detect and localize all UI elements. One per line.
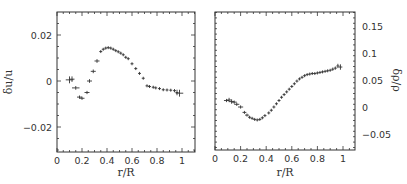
left-x-tick-labels: 00.20.40.60.81 xyxy=(54,155,185,166)
data-point xyxy=(99,50,102,53)
data-point xyxy=(91,70,96,74)
data-point xyxy=(275,102,278,105)
x-tick-label: 0 xyxy=(212,153,218,164)
data-point xyxy=(107,46,110,49)
data-point xyxy=(311,72,314,75)
data-point xyxy=(162,88,165,91)
y-tick-label: 0.15 xyxy=(362,21,383,32)
x-tick-label: 0.2 xyxy=(74,155,89,166)
data-point xyxy=(169,89,172,92)
right-x-axis-label: r/R xyxy=(276,166,294,179)
y-tick-label: 0 xyxy=(46,76,52,87)
data-point xyxy=(280,96,283,99)
data-point xyxy=(72,86,80,90)
data-point xyxy=(131,62,134,65)
y-tick-label: 0.1 xyxy=(362,48,377,59)
left-y-axis-label: δu/u xyxy=(2,70,15,95)
data-point xyxy=(321,70,324,73)
data-point xyxy=(308,73,311,76)
data-point xyxy=(272,106,275,109)
data-point xyxy=(267,111,270,114)
data-point xyxy=(166,88,169,91)
data-point xyxy=(238,105,243,108)
x-tick-label: 0.6 xyxy=(284,153,299,164)
left-plot-frame xyxy=(57,12,195,152)
data-point xyxy=(334,67,337,70)
data-point xyxy=(278,99,281,102)
right-plot-frame xyxy=(215,12,355,150)
data-point xyxy=(70,76,75,82)
data-point xyxy=(326,69,329,72)
y-tick-label: 0.05 xyxy=(362,75,383,86)
data-point xyxy=(263,114,266,117)
data-point xyxy=(261,116,264,119)
data-point xyxy=(122,53,125,56)
data-point xyxy=(234,103,239,106)
data-point xyxy=(270,109,273,112)
data-point xyxy=(288,88,291,91)
left-y-tick-labels: 0.020−0.02 xyxy=(23,30,52,133)
left-ticks xyxy=(57,12,195,152)
data-point xyxy=(318,71,321,74)
y-tick-label: 0.02 xyxy=(31,30,52,41)
x-tick-label: 1 xyxy=(340,153,346,164)
right-y-axis-label: δρ/ρ xyxy=(390,68,403,91)
left-x-axis-label: r/R xyxy=(117,166,135,179)
data-point xyxy=(285,90,288,93)
x-tick-label: 0.6 xyxy=(124,155,139,166)
data-point xyxy=(95,59,100,63)
figure: 00.20.40.60.81 0.020−0.02 r/R δu/u 00.20… xyxy=(0,0,407,184)
data-point xyxy=(306,73,309,76)
data-point xyxy=(303,74,306,77)
data-point xyxy=(232,101,237,104)
x-tick-label: 0.2 xyxy=(233,153,248,164)
data-point xyxy=(298,77,301,80)
data-point xyxy=(324,70,327,73)
right-ticks xyxy=(215,12,355,150)
data-point xyxy=(87,79,92,83)
data-point xyxy=(256,118,259,121)
right-y-tick-labels: 0.150.10.050−0.05 xyxy=(362,21,391,140)
x-tick-label: 1 xyxy=(179,155,185,166)
data-point xyxy=(142,77,145,80)
data-point xyxy=(290,85,293,88)
data-point xyxy=(301,76,304,79)
data-point xyxy=(293,82,296,85)
y-tick-label: −0.02 xyxy=(23,122,52,133)
x-tick-label: 0.8 xyxy=(149,155,164,166)
x-tick-label: 0.8 xyxy=(310,153,325,164)
y-tick-label: −0.05 xyxy=(362,129,391,140)
data-point xyxy=(283,93,286,96)
left-panel: 00.20.40.60.81 0.020−0.02 r/R δu/u xyxy=(2,12,195,179)
right-panel: 00.20.40.60.81 0.150.10.050−0.05 r/R δρ/… xyxy=(212,12,403,179)
left-data-points xyxy=(66,46,184,100)
data-point xyxy=(331,68,334,71)
data-point xyxy=(173,89,176,92)
data-point xyxy=(313,72,316,75)
data-point xyxy=(329,69,332,72)
data-point xyxy=(258,118,261,121)
data-point xyxy=(85,91,90,94)
data-point xyxy=(339,64,343,69)
data-point xyxy=(224,99,229,102)
x-tick-label: 0.4 xyxy=(259,153,274,164)
data-point xyxy=(138,72,141,75)
data-point xyxy=(243,111,247,114)
x-tick-label: 0.4 xyxy=(99,155,114,166)
right-x-tick-labels: 00.20.40.60.81 xyxy=(212,153,346,164)
data-point xyxy=(158,87,161,90)
x-tick-label: 0 xyxy=(54,155,60,166)
data-point xyxy=(245,114,249,117)
data-point xyxy=(134,67,137,70)
data-point xyxy=(316,71,319,74)
y-tick-label: 0 xyxy=(362,102,368,113)
data-point xyxy=(295,80,298,83)
right-data-points xyxy=(224,64,342,122)
